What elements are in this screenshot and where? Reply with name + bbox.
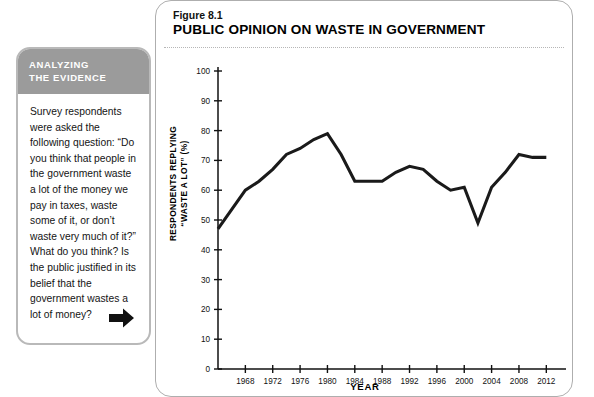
analyzing-the-evidence-box: ANALYZING THE EVIDENCE Survey respondent…: [16, 47, 151, 345]
y-tick-label: 100: [196, 67, 210, 76]
y-tick-label: 20: [201, 305, 211, 314]
y-tick-label: 80: [201, 127, 211, 136]
y-tick-label: 0: [205, 365, 210, 374]
chart-svg: 0102030405060708090100196819721976198019…: [156, 1, 574, 397]
arrow-right-icon[interactable]: [109, 307, 135, 329]
sidebar-header-line2: THE EVIDENCE: [29, 71, 149, 84]
y-tick-label: 60: [201, 186, 211, 195]
y-tick-label: 90: [201, 97, 211, 106]
sidebar-header-line1: ANALYZING: [29, 58, 149, 71]
y-axis-label: RESPONDENTS REPLYING “WASTE A LOT” (%): [168, 99, 189, 269]
y-tick-label: 10: [201, 335, 211, 344]
line-chart: RESPONDENTS REPLYING “WASTE A LOT” (%) 0…: [156, 1, 574, 397]
y-tick-label: 70: [201, 156, 211, 165]
y-tick-label: 30: [201, 276, 211, 285]
sidebar-header: ANALYZING THE EVIDENCE: [18, 49, 149, 94]
y-tick-label: 40: [201, 246, 211, 255]
figure-panel: Figure 8.1 PUBLIC OPINION ON WASTE IN GO…: [155, 0, 573, 397]
figure-screenshot: ANALYZING THE EVIDENCE Survey respondent…: [0, 0, 594, 397]
y-axis-label-line1: RESPONDENTS REPLYING: [168, 99, 179, 269]
y-axis-label-line2: “WASTE A LOT” (%): [178, 99, 189, 269]
x-axis-label: YEAR: [156, 381, 574, 392]
y-tick-label: 50: [201, 216, 211, 225]
sidebar-body-text: Survey respondents were asked the follow…: [18, 94, 149, 304]
data-series-line: [218, 134, 546, 229]
